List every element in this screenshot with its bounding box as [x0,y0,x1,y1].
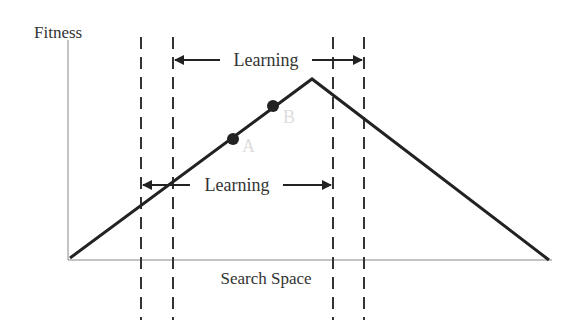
x-axis-label: Search Space [220,269,311,288]
point-b [267,100,279,112]
point-a-label: A [242,136,255,156]
point-b-label: B [283,107,295,127]
y-axis-label: Fitness [34,23,82,42]
top-arrow-label: Learning [234,50,299,70]
bottom-arrow-label: Learning [205,175,270,195]
point-a [227,133,239,145]
fitness-diagram: A B Learning Learning Fitness Search Spa… [0,0,578,333]
